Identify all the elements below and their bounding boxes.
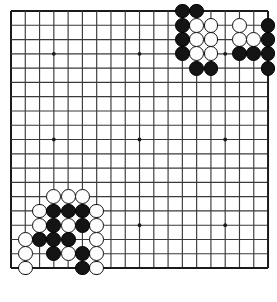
white-stone[interactable] bbox=[89, 204, 104, 219]
white-stone[interactable] bbox=[18, 261, 33, 276]
white-stone[interactable] bbox=[246, 32, 261, 47]
black-stone[interactable] bbox=[175, 32, 190, 47]
black-stone[interactable] bbox=[175, 46, 190, 61]
white-stone[interactable] bbox=[89, 218, 104, 233]
white-stone[interactable] bbox=[189, 46, 204, 61]
black-stone[interactable] bbox=[261, 18, 276, 33]
go-board-app bbox=[0, 0, 277, 302]
black-stone[interactable] bbox=[61, 204, 76, 219]
black-stone[interactable] bbox=[261, 46, 276, 61]
black-stone[interactable] bbox=[75, 204, 90, 219]
black-stone[interactable] bbox=[232, 46, 247, 61]
white-stone[interactable] bbox=[89, 246, 104, 261]
white-stone[interactable] bbox=[18, 246, 33, 261]
black-stone[interactable] bbox=[75, 218, 90, 233]
white-stone[interactable] bbox=[75, 189, 90, 204]
black-stone[interactable] bbox=[46, 246, 61, 261]
black-stone[interactable] bbox=[175, 18, 190, 33]
white-stone[interactable] bbox=[32, 204, 47, 219]
black-stone[interactable] bbox=[175, 4, 190, 19]
white-stone[interactable] bbox=[61, 189, 76, 204]
black-stone[interactable] bbox=[61, 232, 76, 247]
white-stone[interactable] bbox=[61, 246, 76, 261]
white-stone[interactable] bbox=[232, 32, 247, 47]
white-stone[interactable] bbox=[46, 189, 61, 204]
black-stone[interactable] bbox=[32, 232, 47, 247]
black-stone[interactable] bbox=[246, 46, 261, 61]
black-stone[interactable] bbox=[204, 61, 219, 76]
white-stone[interactable] bbox=[204, 32, 219, 47]
black-stone[interactable] bbox=[189, 61, 204, 76]
black-stone[interactable] bbox=[46, 218, 61, 233]
black-stone[interactable] bbox=[189, 4, 204, 19]
white-stone[interactable] bbox=[61, 218, 76, 233]
white-stone[interactable] bbox=[232, 18, 247, 33]
black-stone[interactable] bbox=[261, 61, 276, 76]
white-stone[interactable] bbox=[189, 18, 204, 33]
white-stone[interactable] bbox=[89, 232, 104, 247]
white-stone[interactable] bbox=[204, 18, 219, 33]
black-stone[interactable] bbox=[75, 261, 90, 276]
black-stone[interactable] bbox=[75, 246, 90, 261]
white-stone[interactable] bbox=[89, 261, 104, 276]
board-container[interactable] bbox=[0, 0, 277, 302]
black-stone[interactable] bbox=[46, 204, 61, 219]
white-stone[interactable] bbox=[18, 232, 33, 247]
white-stone[interactable] bbox=[32, 218, 47, 233]
stone-layer[interactable] bbox=[0, 0, 277, 302]
white-stone[interactable] bbox=[189, 32, 204, 47]
black-stone[interactable] bbox=[261, 32, 276, 47]
white-stone[interactable] bbox=[204, 46, 219, 61]
black-stone[interactable] bbox=[46, 232, 61, 247]
